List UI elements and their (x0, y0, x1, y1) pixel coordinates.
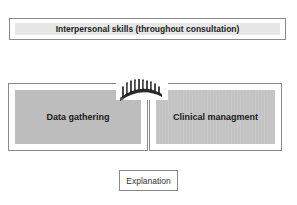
explanation-box: Explanation (119, 170, 178, 191)
interpersonal-skills-box: Interpersonal skills (throughout consult… (9, 18, 286, 40)
clinical-management-frame: Clinical managment (149, 83, 282, 151)
interpersonal-skills-label: Interpersonal skills (throughout consult… (15, 23, 280, 35)
bridge-icon (118, 78, 164, 102)
clinical-management-label: Clinical managment (156, 90, 275, 144)
explanation-label: Explanation (126, 176, 170, 186)
